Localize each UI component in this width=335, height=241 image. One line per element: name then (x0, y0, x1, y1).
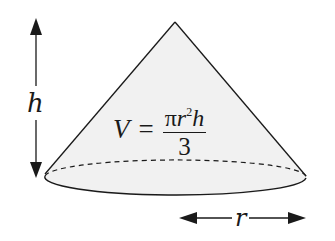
radius-label: r (232, 204, 249, 232)
numerator-h: h (192, 105, 204, 131)
pi-symbol: π (165, 105, 177, 131)
formula-equals: = (139, 114, 154, 145)
formula-numerator: πr2h (163, 100, 206, 130)
formula-denominator: 3 (178, 134, 191, 159)
height-arrow-bottom-icon (30, 162, 42, 178)
cone-base (45, 160, 307, 196)
formula-fraction: πr2h 3 (163, 100, 206, 159)
volume-formula: V = πr2h 3 (113, 100, 206, 159)
height-label: h (27, 86, 44, 120)
formula-lhs: V (113, 114, 130, 145)
cone-diagram: h r V = πr2h 3 (0, 0, 335, 241)
radius-arrow-right-icon (288, 212, 306, 224)
height-arrow-top-icon (30, 18, 42, 35)
radius-arrow-left-icon (179, 212, 197, 224)
numerator-r: r (177, 105, 186, 131)
